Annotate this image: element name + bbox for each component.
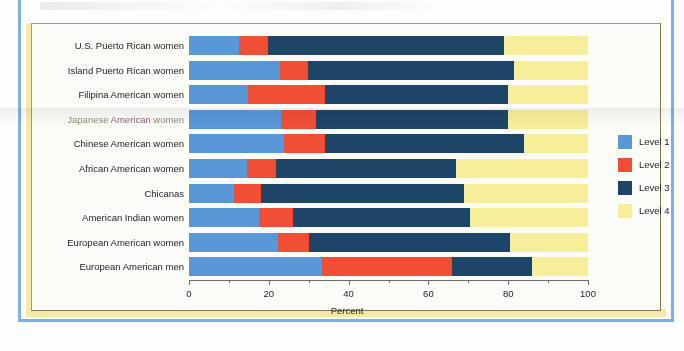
bar-segment-level-4 [524,134,588,153]
bar-segment-level-3 [276,159,456,178]
screenshot-root: U.S. Puerto Rican womenIsland Puerto Ric… [0,0,684,351]
x-axis-tick [508,280,509,285]
bar-segment-level-4 [508,110,588,129]
bar-segment-level-3 [309,233,510,252]
bar-segment-level-3 [452,257,532,276]
legend-swatch-icon [618,135,632,149]
bar-row [189,36,588,55]
bar-segment-level-3 [293,208,471,227]
bar-segment-level-2 [259,208,293,227]
x-axis-tick-label: 40 [343,288,354,299]
x-axis-tick-label: 80 [503,288,514,299]
legend-item: Level 2 [618,153,684,176]
x-axis-title: Percent [32,305,662,316]
bar-row [189,134,588,153]
legend-swatch-icon [618,158,632,172]
category-label: Chicanas [32,184,184,203]
bar-segment-level-4 [456,159,588,178]
category-label: European American women [32,233,184,252]
legend-item: Level 1 [618,130,684,153]
category-axis-labels: U.S. Puerto Rican womenIsland Puerto Ric… [32,34,184,280]
bar-segment-level-1 [189,61,280,80]
bar-segment-level-4 [508,85,588,104]
bar-segment-level-1 [189,184,234,203]
legend-label: Level 2 [639,159,670,170]
x-axis-tick [428,280,429,285]
legend-item: Level 4 [618,199,684,222]
bar-row [189,208,588,227]
page-edge-left [18,0,21,322]
bar-segment-level-1 [189,110,281,129]
bar-segment-level-2 [322,257,452,276]
x-axis-minor-tick [468,280,469,283]
x-axis-tick [189,280,190,285]
bar-segment-level-4 [470,208,588,227]
bar-segment-level-2 [248,85,325,104]
category-label: U.S. Puerto Rican women [32,36,184,55]
bar-row [189,85,588,104]
bar-segment-level-1 [189,159,247,178]
bar-row [189,110,588,129]
bar-segment-level-2 [247,159,276,178]
scan-artifact-top [40,2,440,10]
legend-label: Level 3 [639,182,670,193]
bar-row [189,184,588,203]
bar-segment-level-2 [284,134,325,153]
bar-segment-level-2 [280,61,308,80]
bar-segment-level-1 [189,233,278,252]
bar-rows [189,34,588,280]
chart-legend: Level 1Level 2Level 3Level 4 [618,130,684,222]
x-axis-minor-tick [548,280,549,283]
x-axis-tick-label: 60 [423,288,434,299]
bar-segment-level-1 [189,134,284,153]
bar-segment-level-3 [308,61,514,80]
bar-segment-level-4 [464,184,588,203]
bar-segment-level-4 [532,257,588,276]
bar-segment-level-1 [189,36,239,55]
bar-segment-level-3 [325,85,509,104]
x-axis-minor-tick [389,280,390,283]
x-axis-minor-tick [309,280,310,283]
bar-segment-level-1 [189,208,259,227]
x-axis-tick-label: 100 [580,288,596,299]
category-label: European American men [32,257,184,276]
chart-panel: U.S. Puerto Rican womenIsland Puerto Ric… [31,23,661,311]
legend-label: Level 1 [639,136,670,147]
bar-row [189,61,588,80]
category-label: Japanese American women [32,110,184,129]
x-axis-tick-label: 0 [186,288,191,299]
x-axis-tick [349,280,350,285]
bar-segment-level-2 [278,233,309,252]
x-axis-tick [269,280,270,285]
bar-segment-level-3 [268,36,504,55]
bar-segment-level-2 [239,36,268,55]
bar-segment-level-2 [281,110,316,129]
bar-segment-level-4 [514,61,588,80]
bar-segment-level-2 [234,184,261,203]
bar-segment-level-3 [325,134,525,153]
bar-segment-level-3 [261,184,464,203]
x-axis-tick-label: 20 [264,288,275,299]
category-label: Chinese American women [32,134,184,153]
bar-segment-level-1 [189,85,248,104]
category-label: American Indian women [32,208,184,227]
bar-row [189,159,588,178]
bar-row [189,257,588,276]
bar-segment-level-4 [510,233,588,252]
x-axis-tick [588,280,589,285]
legend-item: Level 3 [618,176,684,199]
bar-segment-level-4 [504,36,588,55]
bar-row [189,233,588,252]
plot-area [189,34,588,280]
page-edge-bottom [18,319,674,322]
category-label: African American women [32,159,184,178]
legend-swatch-icon [618,204,632,218]
x-axis-minor-tick [229,280,230,283]
legend-swatch-icon [618,181,632,195]
legend-label: Level 4 [639,205,670,216]
category-label: Filipina American women [32,85,184,104]
bar-segment-level-1 [189,257,322,276]
category-label: Island Puerto Rican women [32,61,184,80]
bar-segment-level-3 [316,110,508,129]
